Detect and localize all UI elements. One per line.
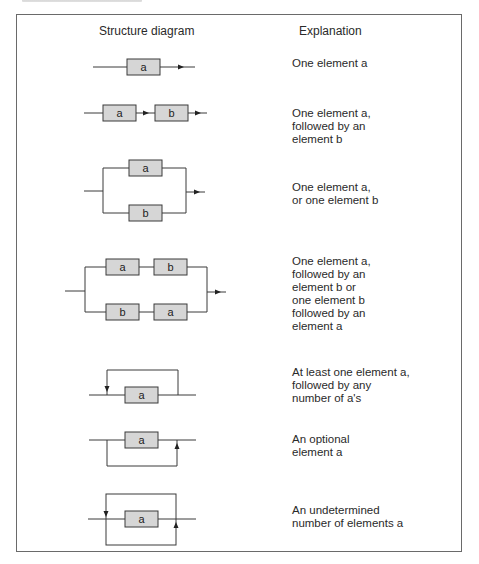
arrow-right-icon: [195, 111, 201, 116]
diagram-sequence-single: a: [93, 59, 195, 75]
arrow-right-icon: [143, 111, 149, 116]
element-label: a: [119, 261, 126, 273]
arrow-down-icon: [105, 386, 110, 392]
element-label: b: [142, 207, 148, 219]
arrow-up-icon: [175, 443, 180, 449]
arrow-right-icon: [178, 65, 184, 70]
element-label: a: [138, 513, 145, 525]
element-label: a: [167, 306, 174, 318]
diagram-sequence-pair: a b: [84, 105, 207, 121]
diagram-repetition-one-or-more: a: [89, 370, 196, 403]
element-label: a: [140, 61, 147, 73]
element-label: b: [119, 306, 125, 318]
structure-diagrams: a a b a b a: [0, 0, 479, 564]
element-label: a: [142, 162, 149, 174]
arrow-right-icon: [215, 290, 221, 295]
element-label: a: [116, 107, 123, 119]
element-label: a: [138, 434, 145, 446]
diagram-selection: a b: [84, 160, 205, 221]
element-label: b: [167, 261, 173, 273]
arrow-down-icon: [104, 511, 109, 517]
diagram-selection-of-sequences: a b b a: [65, 259, 226, 320]
arrow-right-icon: [194, 190, 200, 195]
element-label: a: [138, 389, 145, 401]
element-label: b: [168, 107, 174, 119]
arrow-up-icon: [174, 522, 179, 528]
diagram-optional: a: [89, 432, 196, 466]
diagram-repetition-zero-or-more: a: [88, 494, 196, 545]
